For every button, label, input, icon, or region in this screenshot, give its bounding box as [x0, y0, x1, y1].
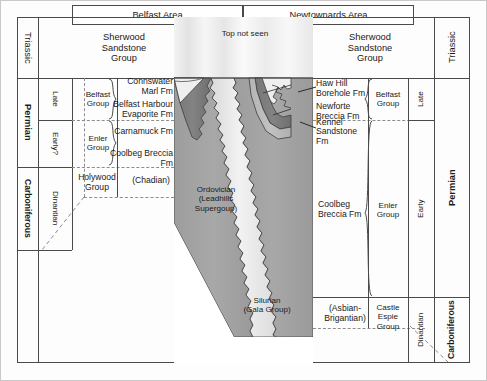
top-not-seen-label: Top not seen: [200, 28, 290, 40]
right-period-permian: Permian: [434, 78, 470, 297]
newt-sherwood-group: Sherwood Sandstone Group: [315, 30, 425, 66]
left-period-triassic: Triassic: [17, 17, 38, 78]
left-epoch-late: Late: [38, 78, 72, 120]
chadian-label: (Chadian): [129, 175, 173, 187]
belfast-sherwood-group: Sherwood Sandstone Group: [74, 30, 174, 66]
newt-castle-espie-group-label: Castle Espie Group: [374, 300, 402, 334]
belfast-group-label: Belfast Group: [85, 87, 111, 111]
belfast-harbour-evaporite-fm: Belfast Harbour Evaporite Fm: [112, 99, 173, 121]
haw-hill-borehole-fm: Haw Hill Borehole Fm: [316, 83, 370, 95]
left-period-permian: Permian: [17, 78, 38, 167]
silurian-label: Silurian (Gala Group): [228, 293, 306, 317]
ordovician-label: Ordovician (Leadhills Supergoup): [178, 182, 254, 216]
left-period-carboniferous: Carboniferous: [17, 167, 38, 250]
coolbeg-breccia-fm-belfast: Coolbeg Breccia Fm: [108, 153, 173, 165]
newt-belfast-group-label: Belfast Group: [374, 87, 402, 111]
newt-enler-group-label: Enler Group: [374, 198, 402, 222]
asbian-brigantian-label: (Asbian- Brigantian): [316, 303, 374, 325]
right-period-carboniferous: Carboniferous: [434, 297, 470, 363]
newt-leader-lines: [280, 82, 320, 142]
right-epoch-dinantian: Dinantian: [408, 297, 434, 363]
carnamuck-fm: Carnamuck Fm: [113, 126, 173, 138]
right-epoch-late: Late: [408, 78, 434, 120]
kennel-sandstone-fm: Kennel Sandstone Fm: [316, 126, 370, 138]
right-period-triassic: Triassic: [434, 17, 470, 78]
connswater-marl-fm: Connswater Marl Fm: [118, 81, 173, 93]
left-epoch-early: Early?: [38, 120, 72, 167]
stratigraphic-chart: Belfast Area Newtownards Area: [0, 0, 487, 381]
right-epoch-early: Early: [408, 120, 434, 297]
holywood-group: Holywood Group: [68, 172, 126, 194]
belfast-onlap-dashes: [38, 190, 88, 254]
coolbeg-breccia-fm-newt: Coolbeg Breccia Fm: [318, 204, 374, 216]
dash-belfast-chadian-base: [84, 197, 174, 198]
